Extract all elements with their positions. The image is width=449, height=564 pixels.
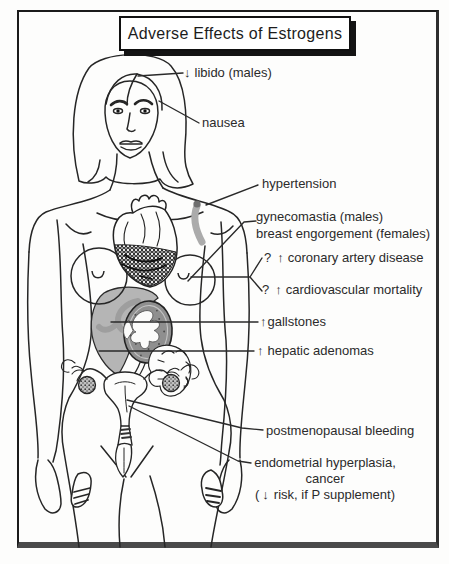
label-postmenopausal: postmenopausal bleeding bbox=[266, 423, 414, 439]
label-gallstones: ↑gallstones bbox=[260, 314, 326, 330]
label-endometrial: endometrial hyperplasia, cancer (↓risk, … bbox=[237, 455, 413, 503]
label-nausea: nausea bbox=[202, 115, 245, 131]
title-box: Adverse Effects of Estrogens bbox=[119, 16, 351, 51]
up-arrow-icon: ↑ bbox=[275, 282, 282, 297]
right-ovary bbox=[163, 375, 180, 392]
heart bbox=[113, 195, 177, 287]
inner-legs bbox=[119, 476, 165, 547]
label-gynecomastia: gynecomastia (males) breast engorgement … bbox=[256, 208, 430, 242]
label-cardiovascular: ?↑cardiovascular mortality bbox=[262, 282, 422, 298]
label-hepatic-adenomas: ↑hepatic adenomas bbox=[257, 343, 374, 359]
up-arrow-icon: ↑ bbox=[277, 250, 284, 265]
leader-hypertension bbox=[206, 185, 258, 205]
hypertension-band bbox=[193, 200, 202, 242]
left-hand bbox=[36, 460, 92, 513]
right-hand bbox=[201, 460, 241, 513]
left-ovary bbox=[79, 377, 96, 394]
up-arrow-icon: ↑ bbox=[257, 343, 264, 358]
page-title: Adverse Effects of Estrogens bbox=[128, 25, 342, 43]
label-hypertension: hypertension bbox=[262, 176, 336, 192]
down-arrow-icon: ↓ bbox=[262, 487, 269, 502]
diagram-page: Adverse Effects of Estrogens bbox=[0, 0, 449, 564]
up-arrow-icon: ↑ bbox=[260, 314, 267, 329]
down-arrow-icon: ↓ bbox=[184, 65, 191, 80]
label-libido: ↓libido (males) bbox=[184, 65, 272, 81]
label-coronary: ?↑coronary artery disease bbox=[264, 250, 424, 266]
